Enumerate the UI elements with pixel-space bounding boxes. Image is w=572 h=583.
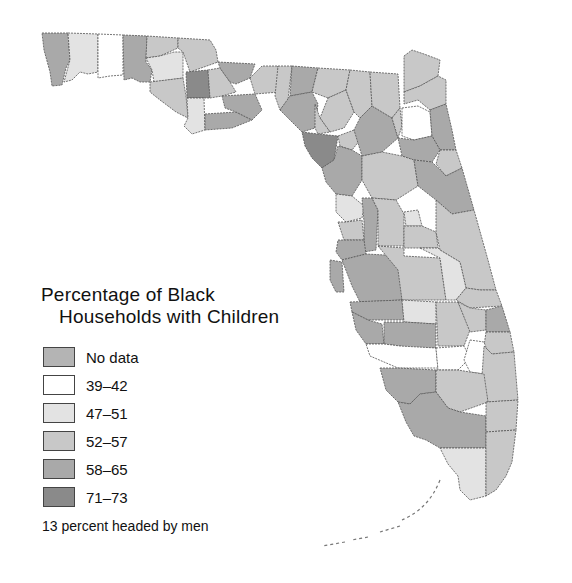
county-hernando [338, 220, 364, 240]
county-orange [404, 226, 438, 248]
county-bay [150, 78, 188, 118]
county-clay [402, 106, 432, 140]
county-palm-beach [482, 346, 518, 402]
county-st-lucie [486, 306, 510, 332]
county-miami-dade [486, 430, 516, 496]
legend-title-line1: Percentage of Black [41, 284, 215, 305]
legend-label: 71–73 [86, 489, 128, 506]
county-jackson [178, 38, 218, 72]
legend-label: 52–57 [86, 433, 128, 450]
legend-swatch [43, 375, 75, 395]
legend-swatch [43, 487, 75, 507]
legend: No data 39–42 47–51 52–57 58–65 71–73 [43, 343, 139, 511]
county-charlotte [366, 344, 438, 368]
legend-item-71-73: 71–73 [43, 483, 139, 511]
county-citrus [336, 194, 364, 222]
legend-item-47-51: 47–51 [43, 399, 139, 427]
legend-title: Percentage of Black Households with Chil… [41, 284, 279, 328]
legend-label: 58–65 [86, 461, 128, 478]
county-calhoun [186, 70, 210, 98]
county-pinellas [330, 260, 344, 292]
legend-swatch [43, 347, 75, 367]
county-monroe [440, 448, 486, 500]
county-okaloosa [98, 34, 123, 78]
legend-swatch [43, 459, 75, 479]
county-broward [486, 400, 518, 432]
legend-item-39-42: 39–42 [43, 371, 139, 399]
legend-item-52-57: 52–57 [43, 427, 139, 455]
legend-label: 47–51 [86, 405, 128, 422]
legend-swatch [43, 431, 75, 451]
legend-item-58-65: 58–65 [43, 455, 139, 483]
legend-label: 39–42 [86, 377, 128, 394]
florida-keys [322, 480, 440, 546]
legend-swatch [43, 403, 75, 423]
county-hardee [402, 300, 436, 324]
county-marion [362, 152, 418, 200]
footnote: 13 percent headed by men [42, 518, 209, 534]
county-desoto [384, 322, 436, 348]
legend-title-line2: Households with Children [41, 306, 279, 328]
legend-item-no-data: No data [43, 343, 139, 371]
legend-label: No data [86, 349, 139, 366]
county-seminole [404, 210, 422, 226]
